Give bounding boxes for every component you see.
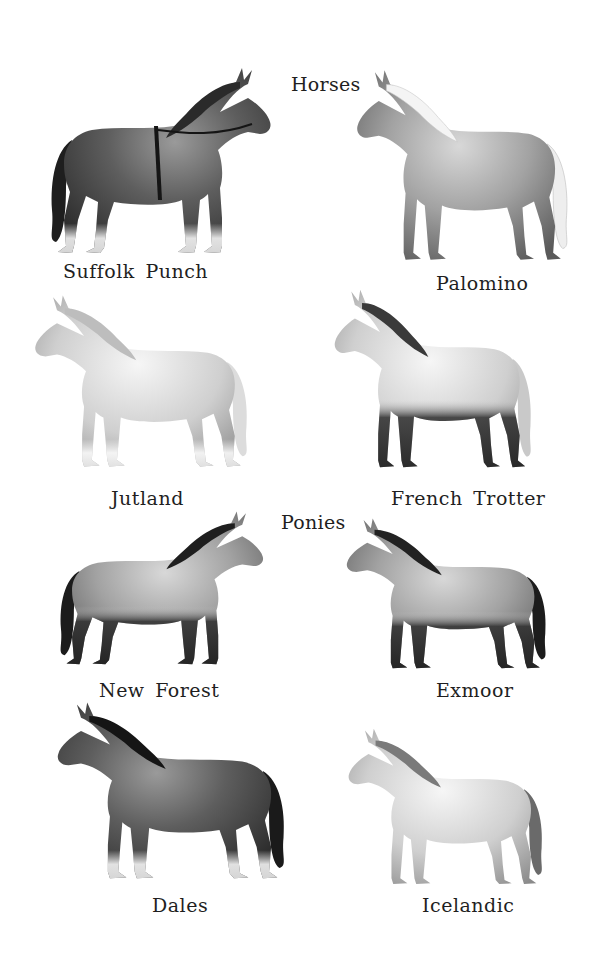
caption-exmoor: Exmoor: [436, 679, 514, 701]
dales-illustration: [50, 695, 298, 885]
palomino-illustration: [350, 62, 580, 267]
jutland-illustration: [28, 288, 260, 473]
french-trotter-illustration: [328, 282, 543, 474]
caption-suffolk-punch: Suffolk Punch: [63, 260, 208, 282]
caption-french-trotter: French Trotter: [391, 487, 545, 509]
caption-dales: Dales: [152, 894, 208, 916]
exmoor-illustration: [340, 512, 558, 674]
breed-plate: Horses Ponies Suffolk Punch Palomino Jut…: [0, 0, 601, 957]
new-forest-illustration: [48, 505, 270, 670]
caption-icelandic: Icelandic: [422, 894, 514, 916]
section-label-ponies: Ponies: [281, 511, 346, 533]
suffolk-punch-illustration: [38, 60, 278, 260]
icelandic-illustration: [342, 722, 554, 890]
